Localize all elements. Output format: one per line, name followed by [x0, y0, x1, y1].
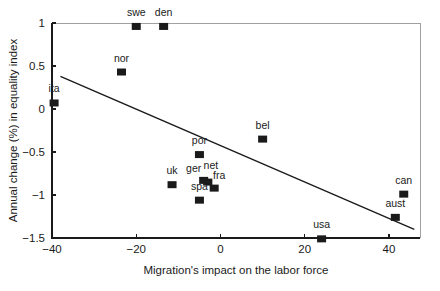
chart-figure: −40−2002040 10.50−0.5−1−1.5 swedennorita… [0, 0, 440, 291]
point-marker-nor[interactable] [117, 69, 126, 76]
point-label-spa: spa [191, 180, 208, 192]
y-tick-label: 0 [39, 103, 45, 115]
y-axis-title: Annual change (%) in equality index [7, 39, 19, 223]
point-label-den: den [155, 6, 173, 18]
point-marker-bel[interactable] [258, 136, 267, 143]
x-tick-label: 0 [217, 243, 223, 255]
y-tick-label: −0.5 [22, 146, 45, 158]
x-axis-title: Migration's impact on the labor force [143, 264, 328, 276]
data-point-ita[interactable]: ita [49, 82, 60, 106]
x-tick-label: −40 [42, 243, 62, 255]
point-marker-uk[interactable] [168, 181, 177, 188]
point-marker-den[interactable] [159, 23, 168, 30]
point-label-por: por [192, 134, 208, 146]
point-label-ger: ger [186, 162, 202, 174]
point-marker-ita[interactable] [50, 99, 59, 106]
point-marker-spa[interactable] [195, 197, 204, 204]
x-tick-label: 20 [298, 243, 311, 255]
point-label-ita: ita [49, 82, 60, 94]
point-marker-por[interactable] [195, 151, 204, 158]
y-tick-label: 1 [39, 17, 45, 29]
point-label-can: can [395, 174, 412, 186]
point-label-bel: bel [256, 119, 270, 131]
y-tick-label: −1 [32, 189, 45, 201]
x-tick-label: 40 [383, 243, 396, 255]
point-marker-aust[interactable] [391, 214, 400, 221]
point-marker-usa[interactable] [317, 235, 326, 242]
scatter-plot: −40−2002040 10.50−0.5−1−1.5 swedennorita… [0, 0, 440, 291]
y-tick-label: 0.5 [29, 60, 45, 72]
y-tick-label: −1.5 [22, 232, 45, 244]
point-label-uk: uk [167, 164, 179, 176]
point-label-fra: fra [213, 169, 225, 181]
x-tick-label: −20 [126, 243, 146, 255]
point-label-aust: aust [385, 197, 405, 209]
point-marker-swe[interactable] [132, 23, 141, 30]
point-label-nor: nor [114, 52, 130, 64]
point-marker-fra[interactable] [210, 185, 219, 192]
point-label-swe: swe [127, 6, 146, 18]
point-label-usa: usa [313, 218, 330, 230]
